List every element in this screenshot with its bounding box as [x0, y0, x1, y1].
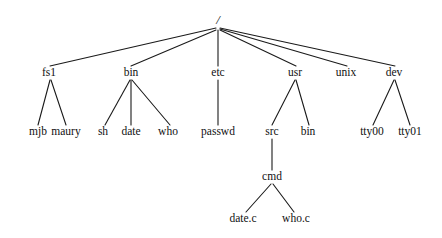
tree-node-usr: usr: [288, 66, 302, 78]
tree-node-unix: unix: [336, 66, 357, 78]
tree-node-tty00: tty00: [360, 125, 384, 138]
tree-edge-root-to-dev: [220, 28, 395, 66]
tree-edge-root-to-bin: [131, 30, 216, 66]
tree-node-fs1: fs1: [42, 66, 56, 78]
tree-edge-root-to-fs1: [50, 28, 216, 66]
tree-edges: [38, 28, 410, 212]
tree-node-passwd: passwd: [201, 125, 235, 138]
tree-node-mjb: mjb: [29, 125, 47, 138]
tree-edge-cmd-to-whoc: [273, 184, 294, 212]
tree-edge-cmd-to-datec: [246, 184, 271, 212]
filesystem-tree-diagram: /fs1binetcusrunixdevmjbmauryshdatewhopas…: [0, 0, 442, 238]
tree-node-src: src: [265, 125, 278, 137]
tree-node-cmd: cmd: [262, 170, 282, 182]
tree-node-date: date: [121, 125, 140, 137]
tree-edge-dev-to-tty01: [395, 80, 410, 125]
tree-node-tty01: tty01: [398, 125, 422, 138]
tree-edge-bin-to-sh: [105, 80, 130, 125]
tree-node-maury: maury: [51, 125, 81, 138]
tree-node-bin: bin: [124, 66, 139, 78]
tree-node-etc: etc: [211, 66, 224, 78]
tree-node-sh: sh: [98, 125, 108, 137]
tree-edge-usr-to-usrbin: [296, 80, 309, 125]
tree-node-datec: date.c: [229, 212, 256, 224]
tree-node-who: who: [158, 125, 178, 137]
tree-node-whoc: who.c: [282, 212, 310, 224]
tree-edge-fs1-to-maury: [51, 80, 66, 125]
tree-node-root: /: [215, 12, 221, 27]
tree-edge-usr-to-src: [272, 80, 295, 125]
tree-node-dev: dev: [386, 66, 403, 78]
tree-node-labels: /fs1binetcusrunixdevmjbmauryshdatewhopas…: [29, 12, 422, 224]
tree-edge-bin-to-who: [132, 80, 170, 125]
tree-svg: /fs1binetcusrunixdevmjbmauryshdatewhopas…: [0, 0, 442, 238]
tree-node-usrbin: bin: [301, 125, 316, 137]
tree-edge-dev-to-tty00: [373, 80, 394, 125]
tree-edge-fs1-to-mjb: [38, 80, 50, 125]
